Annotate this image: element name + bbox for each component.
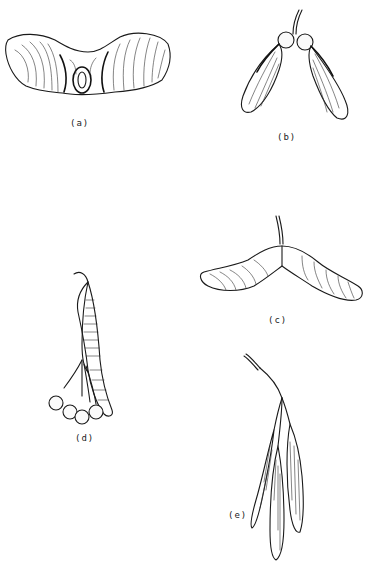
figure-b-label: (b)	[277, 132, 296, 142]
figure-b-samara: (b)	[187, 0, 374, 160]
samara-a-drawing	[0, 0, 187, 160]
samara-c-drawing	[190, 210, 374, 360]
figure-d-samara: (d)	[20, 260, 150, 460]
samara-e-drawing	[220, 350, 350, 573]
figure-d-label: (d)	[75, 433, 94, 443]
figure-a-samara: (a)	[0, 0, 187, 160]
samara-d-drawing	[20, 260, 150, 460]
figure-e-label: (e)	[228, 510, 247, 520]
figure-a-label: (a)	[70, 118, 89, 128]
figure-e-samara: (e)	[220, 350, 350, 573]
figure-c-label: (c)	[268, 315, 287, 325]
figure-c-samara: (c)	[190, 210, 374, 360]
samara-illustration-plate: (a) (b)	[0, 0, 374, 573]
